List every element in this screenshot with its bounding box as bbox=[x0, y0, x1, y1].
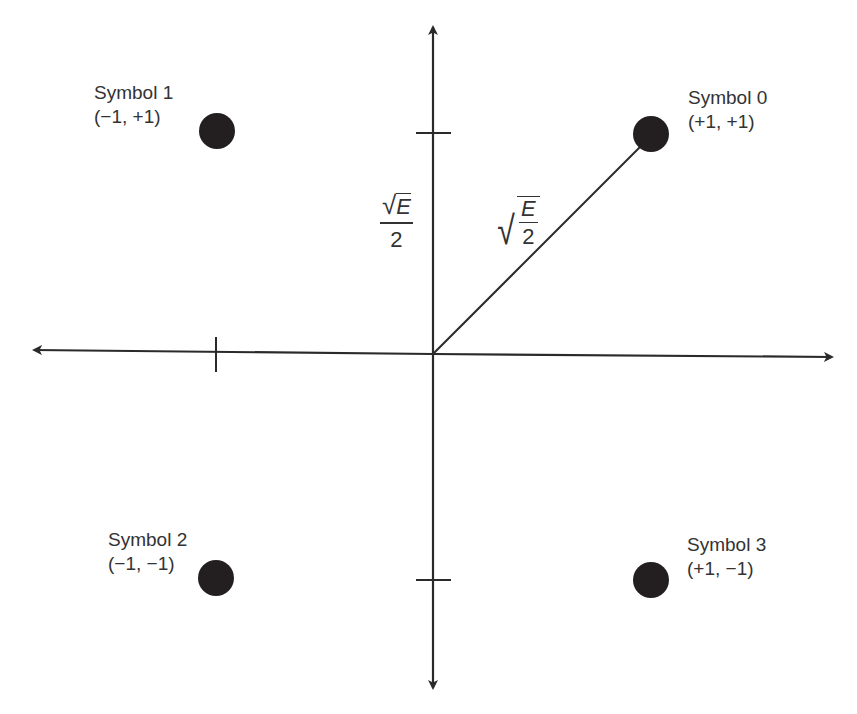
vector-line bbox=[433, 146, 641, 354]
symbol-1-dot bbox=[199, 113, 235, 149]
x-axis-right bbox=[433, 354, 832, 357]
axis-amplitude-annotation: √E 2 bbox=[380, 192, 413, 254]
symbol-2-coords: (−1, −1) bbox=[108, 552, 187, 576]
symbol-3-coords: (+1, −1) bbox=[687, 557, 766, 581]
vector-magnitude-annotation: √ E 2 bbox=[495, 196, 540, 250]
symbol-3-label: Symbol 3 (+1, −1) bbox=[687, 533, 766, 581]
symbol-2-label: Symbol 2 (−1, −1) bbox=[108, 528, 187, 576]
radical-symbol: √ bbox=[382, 190, 396, 220]
symbol-0-coords: (+1, +1) bbox=[688, 110, 767, 134]
symbol-0-name: Symbol 0 bbox=[688, 86, 767, 110]
symbol-3-name: Symbol 3 bbox=[687, 533, 766, 557]
x-axis-left bbox=[34, 350, 433, 354]
symbol-1-name: Symbol 1 bbox=[94, 81, 173, 105]
symbol-0-dot bbox=[633, 116, 669, 152]
symbol-1-coords: (−1, +1) bbox=[94, 105, 173, 129]
denominator: 2 bbox=[390, 224, 402, 254]
symbol-1-label: Symbol 1 (−1, +1) bbox=[94, 81, 173, 129]
energy-symbol: E bbox=[519, 197, 538, 223]
radical-symbol: √ bbox=[497, 210, 515, 250]
energy-symbol: E bbox=[396, 193, 411, 219]
symbol-0-label: Symbol 0 (+1, +1) bbox=[688, 86, 767, 134]
symbol-2-name: Symbol 2 bbox=[108, 528, 187, 552]
symbol-3-dot bbox=[633, 562, 669, 598]
denominator: 2 bbox=[522, 223, 534, 250]
symbol-2-dot bbox=[198, 560, 234, 596]
